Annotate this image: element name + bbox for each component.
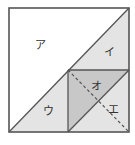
label-o: オ: [91, 80, 102, 93]
label-u: ウ: [43, 105, 54, 118]
label-a: ア: [35, 39, 46, 52]
label-i: イ: [104, 46, 115, 59]
label-e: エ: [108, 103, 119, 116]
square-partition-diagram: ア イ ウ オ エ: [0, 0, 135, 145]
